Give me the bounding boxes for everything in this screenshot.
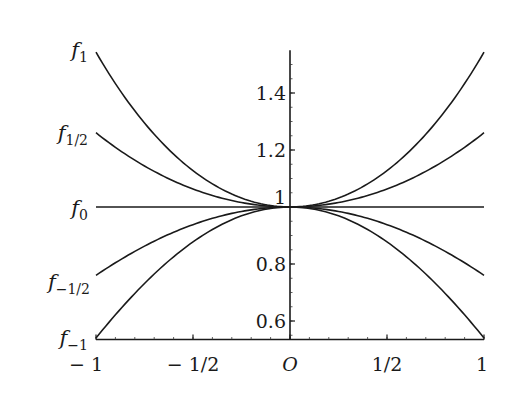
x-tick-label: 1/2 xyxy=(372,353,403,375)
y-tick-label: 0.8 xyxy=(256,253,286,275)
chart: − 1− 1/2O1/21 0.60.811.21.4 f1f1/2f0f−1/… xyxy=(0,0,516,402)
x-tick-label: − 1 xyxy=(69,353,103,375)
x-tick-label: 1 xyxy=(476,353,488,375)
curve-label: f−1/2 xyxy=(46,270,90,297)
y-tick-label: 1 xyxy=(274,186,286,208)
curve-labels: f1f1/2f0f−1/2f−1 xyxy=(46,38,90,353)
curve-label: f1 xyxy=(69,38,88,65)
curve-label: f1/2 xyxy=(56,121,88,148)
curve-label: f0 xyxy=(69,196,88,223)
y-axis: 0.60.811.21.4 xyxy=(256,50,295,339)
y-tick-label: 1.4 xyxy=(256,82,286,104)
x-axis: − 1− 1/2O1/21 xyxy=(69,335,488,375)
y-tick-label: 0.6 xyxy=(256,310,286,332)
x-tick-label: − 1/2 xyxy=(167,353,220,375)
y-tick-label: 1.2 xyxy=(256,139,286,161)
x-tick-label: O xyxy=(282,353,298,375)
curve-label: f−1 xyxy=(58,326,88,353)
